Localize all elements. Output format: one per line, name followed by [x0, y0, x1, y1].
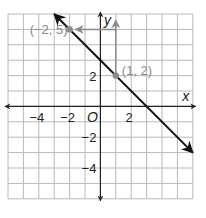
origin-label: O — [87, 109, 98, 125]
x-tick-label: −2 — [60, 110, 75, 125]
x-tick-label: −4 — [29, 110, 44, 125]
coordinate-plane: xyO−4−222−2−4 (−2, 5)(1, 2) — [0, 0, 206, 218]
axes — [5, 12, 196, 201]
slope-arrows — [76, 20, 116, 75]
y-tick-label: 2 — [89, 69, 96, 84]
point-label: (−2, 5) — [30, 22, 68, 37]
line-y-equals-neg-x-plus-3 — [54, 14, 193, 153]
y-tick-label: −4 — [82, 161, 97, 176]
x-tick-label: 2 — [126, 110, 133, 125]
point-marker — [113, 72, 119, 78]
y-tick-label: −2 — [82, 130, 97, 145]
x-axis-label: x — [181, 88, 190, 104]
y-axis-label: y — [103, 12, 112, 28]
point-label: (1, 2) — [122, 63, 152, 78]
plotted-line — [54, 14, 193, 153]
